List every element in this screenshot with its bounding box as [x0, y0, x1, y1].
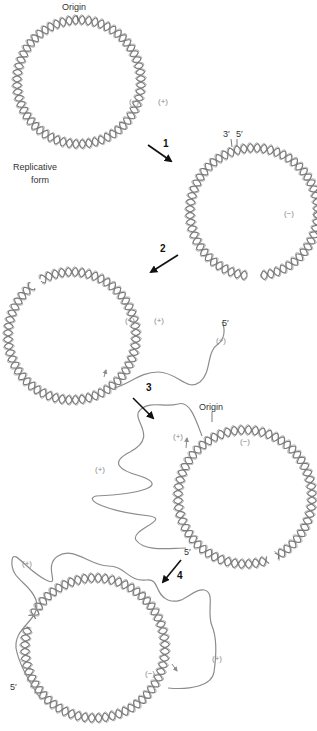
- plus-label-1: (+): [158, 98, 168, 106]
- minus-label-5: (−): [145, 670, 155, 678]
- position-markers: [77, 15, 237, 671]
- rolling-circle-diagram: [0, 0, 317, 731]
- replicative-form-label-1: Replicative: [13, 163, 57, 172]
- helix-strand-a: [4, 268, 140, 404]
- helix-edge: [20, 573, 171, 724]
- plus-label-5-top: (+): [22, 560, 32, 568]
- growth-arrow-step3-icon: [186, 438, 187, 448]
- step-arrows: [133, 145, 181, 582]
- three-prime-tick: [231, 139, 232, 147]
- dna-circle-step3-rolling: [173, 425, 317, 570]
- minus-label-1: (−): [129, 98, 139, 106]
- minus-label-4: (−): [240, 438, 250, 446]
- step-1-number: 1: [163, 139, 169, 149]
- helix-strand-a: [174, 426, 316, 568]
- helix-strand-a: [21, 574, 169, 722]
- dna-circle-step4-second-round: [20, 573, 171, 724]
- five-prime-label-5: 5′: [10, 683, 17, 692]
- helix-strand-b: [4, 268, 140, 404]
- dna-circle-replicative-form: [12, 15, 147, 150]
- helix-strand-b: [174, 426, 316, 568]
- origin-label-1: Origin: [62, 3, 86, 12]
- three-prime-label: 3′: [223, 130, 230, 139]
- helix-strand-b: [21, 574, 169, 722]
- five-prime-label: 5′: [236, 130, 243, 139]
- minus-label-2: (−): [284, 210, 294, 218]
- plus-label-3-strand: (+): [216, 337, 226, 345]
- plus-strand-step4: [12, 553, 216, 698]
- growth-arrow-step4-icon: [172, 664, 177, 671]
- origin-label-3: Origin: [199, 403, 223, 412]
- plus-label-5-right: (+): [212, 655, 222, 663]
- growth-arrow-step2-icon: [104, 370, 106, 377]
- step-2-arrow-icon: [151, 255, 178, 272]
- dna-circle-step2-elongating: [3, 267, 142, 406]
- dna-helices: [3, 15, 317, 724]
- replicative-form-label-2: form: [31, 176, 49, 185]
- plus-strand-step3: [92, 403, 202, 548]
- step-4-number: 4: [177, 571, 183, 581]
- helix-strand-b: [13, 16, 145, 148]
- minus-label-3: (−): [125, 317, 135, 325]
- plus-label-4-inner: (+): [173, 433, 183, 441]
- plus-label-4-strand: (+): [95, 466, 105, 474]
- five-prime-label-3: 5′: [222, 319, 229, 328]
- step-3-number: 3: [146, 383, 152, 393]
- origin-tick-1: [77, 15, 78, 21]
- dna-circle-step1-nicked: [185, 143, 317, 281]
- step-3-arrow-icon: [133, 398, 153, 418]
- five-prime-label-4: 5′: [184, 548, 191, 557]
- helix-edge: [20, 573, 171, 724]
- plus-label-2-partial: (: [313, 210, 316, 218]
- step-2-number: 2: [160, 244, 166, 254]
- helix-strand-a: [13, 16, 145, 148]
- plus-label-3: (+): [154, 317, 164, 325]
